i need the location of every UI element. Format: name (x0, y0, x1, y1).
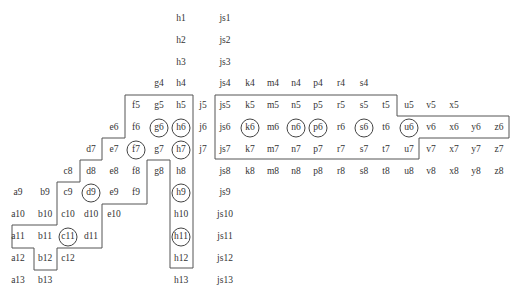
cell-label-h11: h11 (174, 232, 188, 242)
cell-label-s8: s8 (360, 167, 368, 177)
cell-label-f9: f9 (132, 189, 140, 199)
cell-label-g6: g6 (154, 123, 164, 133)
region-outlines (0, 0, 517, 292)
cell-label-js11: js11 (217, 232, 232, 242)
cell-label-f7: f7 (132, 145, 140, 155)
cell-label-js6: js6 (219, 123, 230, 133)
cell-label-p7: p7 (313, 145, 323, 155)
cell-label-g4: g4 (154, 80, 164, 90)
cell-label-m6: m6 (267, 123, 279, 133)
cell-label-b13: b13 (38, 276, 52, 286)
cell-label-h6: h6 (176, 123, 186, 133)
cell-label-d8: d8 (86, 167, 96, 177)
cell-label-m8: m8 (267, 167, 279, 177)
cell-label-g5: g5 (154, 101, 164, 111)
cell-label-js12: js12 (217, 254, 233, 264)
cell-label-js7: js7 (219, 145, 230, 155)
cell-label-p5: p5 (313, 101, 323, 111)
cell-label-c9: c9 (64, 189, 73, 199)
cell-label-h12: h12 (174, 254, 188, 264)
cell-label-s5: s5 (360, 101, 368, 111)
cell-label-r5: r5 (337, 101, 345, 111)
cell-label-u7: u7 (404, 145, 414, 155)
cell-label-h10: h10 (174, 210, 188, 220)
cell-label-d11: d11 (84, 232, 98, 242)
cell-label-j5: j5 (199, 101, 206, 111)
cell-label-t6: t6 (382, 123, 389, 133)
cell-label-k4: k4 (245, 80, 255, 90)
cell-label-js2: js2 (219, 36, 230, 46)
cell-label-a13: a13 (11, 276, 25, 286)
cell-label-v8: v8 (426, 167, 436, 177)
cell-label-t7: t7 (382, 145, 389, 155)
cell-label-c10: c10 (61, 210, 75, 220)
cell-label-t5: t5 (382, 101, 389, 111)
cell-label-p6: p6 (313, 123, 323, 133)
cell-label-x6: x6 (449, 123, 459, 133)
cell-label-e9: e9 (110, 189, 119, 199)
cell-label-h5: h5 (176, 101, 186, 111)
cell-label-y6: y6 (471, 123, 481, 133)
cell-label-h9: h9 (176, 189, 186, 199)
cell-label-h8: h8 (176, 167, 186, 177)
cell-label-m7: m7 (267, 145, 279, 155)
cell-label-js1: js1 (219, 14, 230, 24)
cell-label-r8: r8 (337, 167, 345, 177)
cell-label-e10: e10 (107, 210, 121, 220)
cell-label-js10: js10 (217, 210, 233, 220)
cell-label-m4: m4 (267, 80, 279, 90)
cell-label-d10: d10 (84, 210, 98, 220)
cell-label-js4: js4 (219, 80, 230, 90)
cell-label-v6: v6 (426, 123, 436, 133)
cell-label-a12: a12 (11, 254, 25, 264)
cell-label-f5: f5 (132, 101, 140, 111)
cell-label-j6: j6 (199, 123, 206, 133)
cell-label-c11: c11 (61, 232, 74, 242)
cell-label-k6: k6 (245, 123, 255, 133)
cell-label-k8: k8 (245, 167, 255, 177)
cell-label-b11: b11 (38, 232, 52, 242)
cell-label-s4: s4 (360, 80, 368, 90)
cell-label-r4: r4 (337, 80, 345, 90)
cell-label-k5: k5 (245, 101, 255, 111)
cell-label-n6: n6 (291, 123, 301, 133)
cell-label-c12: c12 (61, 254, 75, 264)
cell-label-v5: v5 (426, 101, 436, 111)
cell-label-js9: js9 (219, 189, 230, 199)
cell-label-a10: a10 (11, 210, 25, 220)
cell-label-z6: z6 (495, 123, 504, 133)
cell-label-e6: e6 (110, 123, 119, 133)
cell-label-j7: j7 (199, 145, 206, 155)
cell-label-b12: b12 (38, 254, 52, 264)
cell-label-h7: h7 (176, 145, 186, 155)
cell-label-d7: d7 (86, 145, 96, 155)
cell-label-n5: n5 (291, 101, 301, 111)
cell-label-r7: r7 (337, 145, 345, 155)
cell-label-u5: u5 (404, 101, 414, 111)
cell-label-u6: u6 (404, 123, 414, 133)
cell-label-js13: js13 (217, 276, 233, 286)
cell-label-h13: h13 (174, 276, 188, 286)
cell-label-x8: x8 (449, 167, 459, 177)
cell-label-f8: f8 (132, 167, 140, 177)
cell-label-y8: y8 (471, 167, 481, 177)
cell-label-b10: b10 (38, 210, 52, 220)
cell-label-n8: n8 (291, 167, 301, 177)
cell-label-z8: z8 (495, 167, 504, 177)
cell-label-h3: h3 (176, 58, 186, 68)
cell-label-p4: p4 (313, 80, 323, 90)
cell-label-b9: b9 (40, 189, 50, 199)
cell-label-x5: x5 (449, 101, 459, 111)
cell-label-u8: u8 (404, 167, 414, 177)
cell-label-n7: n7 (291, 145, 301, 155)
cell-label-h1: h1 (176, 14, 186, 24)
cell-label-s6: s6 (360, 123, 368, 133)
cell-label-a11: a11 (11, 232, 24, 242)
cell-label-k7: k7 (245, 145, 255, 155)
cell-label-z7: z7 (495, 145, 504, 155)
cell-label-e8: e8 (110, 167, 119, 177)
cell-label-p8: p8 (313, 167, 323, 177)
cell-label-y7: y7 (471, 145, 481, 155)
cell-label-h2: h2 (176, 36, 186, 46)
cell-label-g7: g7 (154, 145, 164, 155)
